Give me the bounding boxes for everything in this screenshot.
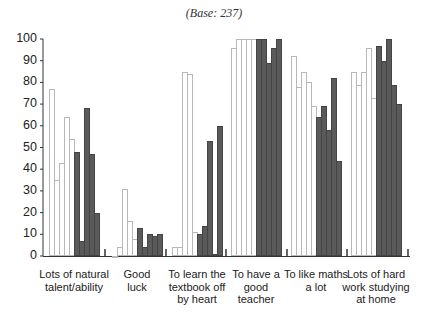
y-tick-label: 20 <box>11 205 37 219</box>
y-tick-label: 10 <box>11 226 37 240</box>
bar-chart: 0102030405060708090100Lots of naturaltal… <box>0 0 428 314</box>
y-tick-label: 80 <box>11 74 37 88</box>
y-tick-label: 90 <box>11 53 37 67</box>
bar <box>217 126 223 256</box>
bar <box>336 161 342 256</box>
bar <box>157 234 163 256</box>
bar <box>207 141 213 256</box>
bar <box>187 74 193 256</box>
y-tick-label: 100 <box>11 31 37 45</box>
y-tick-label: 40 <box>11 161 37 175</box>
y-tick-label: 60 <box>11 118 37 132</box>
bar <box>396 104 402 256</box>
y-tick-label: 50 <box>11 140 37 154</box>
bar <box>276 39 282 256</box>
y-tick-label: 30 <box>11 183 37 197</box>
y-tick-label: 70 <box>11 96 37 110</box>
x-category-label: Lots of naturaltalent/ability <box>39 268 109 293</box>
bar <box>94 213 100 256</box>
x-category-label: Lots of hardwork studyingat home <box>341 268 411 306</box>
y-tick-label: 0 <box>11 248 37 262</box>
